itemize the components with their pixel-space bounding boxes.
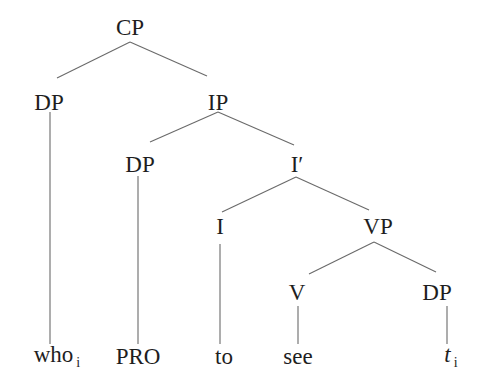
node-vp: VP	[363, 215, 392, 238]
leaf-see: see	[283, 345, 312, 368]
node-dp-pro: DP	[125, 153, 154, 176]
node-i: I	[216, 215, 224, 238]
node-v: V	[289, 281, 306, 304]
edge-ibar-vp	[296, 177, 369, 210]
node-ip: IP	[208, 91, 228, 114]
node-dp-who: DP	[34, 91, 63, 114]
edge-ip-dp	[150, 112, 218, 142]
leaf-who: whoi	[34, 343, 81, 370]
leaf-who-word: who	[34, 342, 74, 367]
leaf-who-index: i	[76, 355, 80, 370]
node-cp: CP	[116, 16, 144, 39]
leaf-trace-index: i	[454, 355, 458, 370]
leaf-trace: ti	[444, 343, 457, 370]
edge-ip-ibar	[218, 112, 294, 145]
node-dp-trace: DP	[422, 281, 451, 304]
leaf-to: to	[215, 345, 233, 368]
leaf-pro: PRO	[116, 345, 161, 368]
leaf-trace-word: t	[444, 342, 450, 367]
edge-cp-ip	[130, 42, 207, 76]
edge-vp-dp	[374, 242, 436, 272]
node-i-bar: I′	[291, 153, 304, 176]
edge-vp-v	[309, 242, 374, 274]
edge-ibar-i	[222, 177, 296, 212]
tree-edges	[0, 0, 482, 391]
edge-cp-dp	[57, 42, 130, 78]
